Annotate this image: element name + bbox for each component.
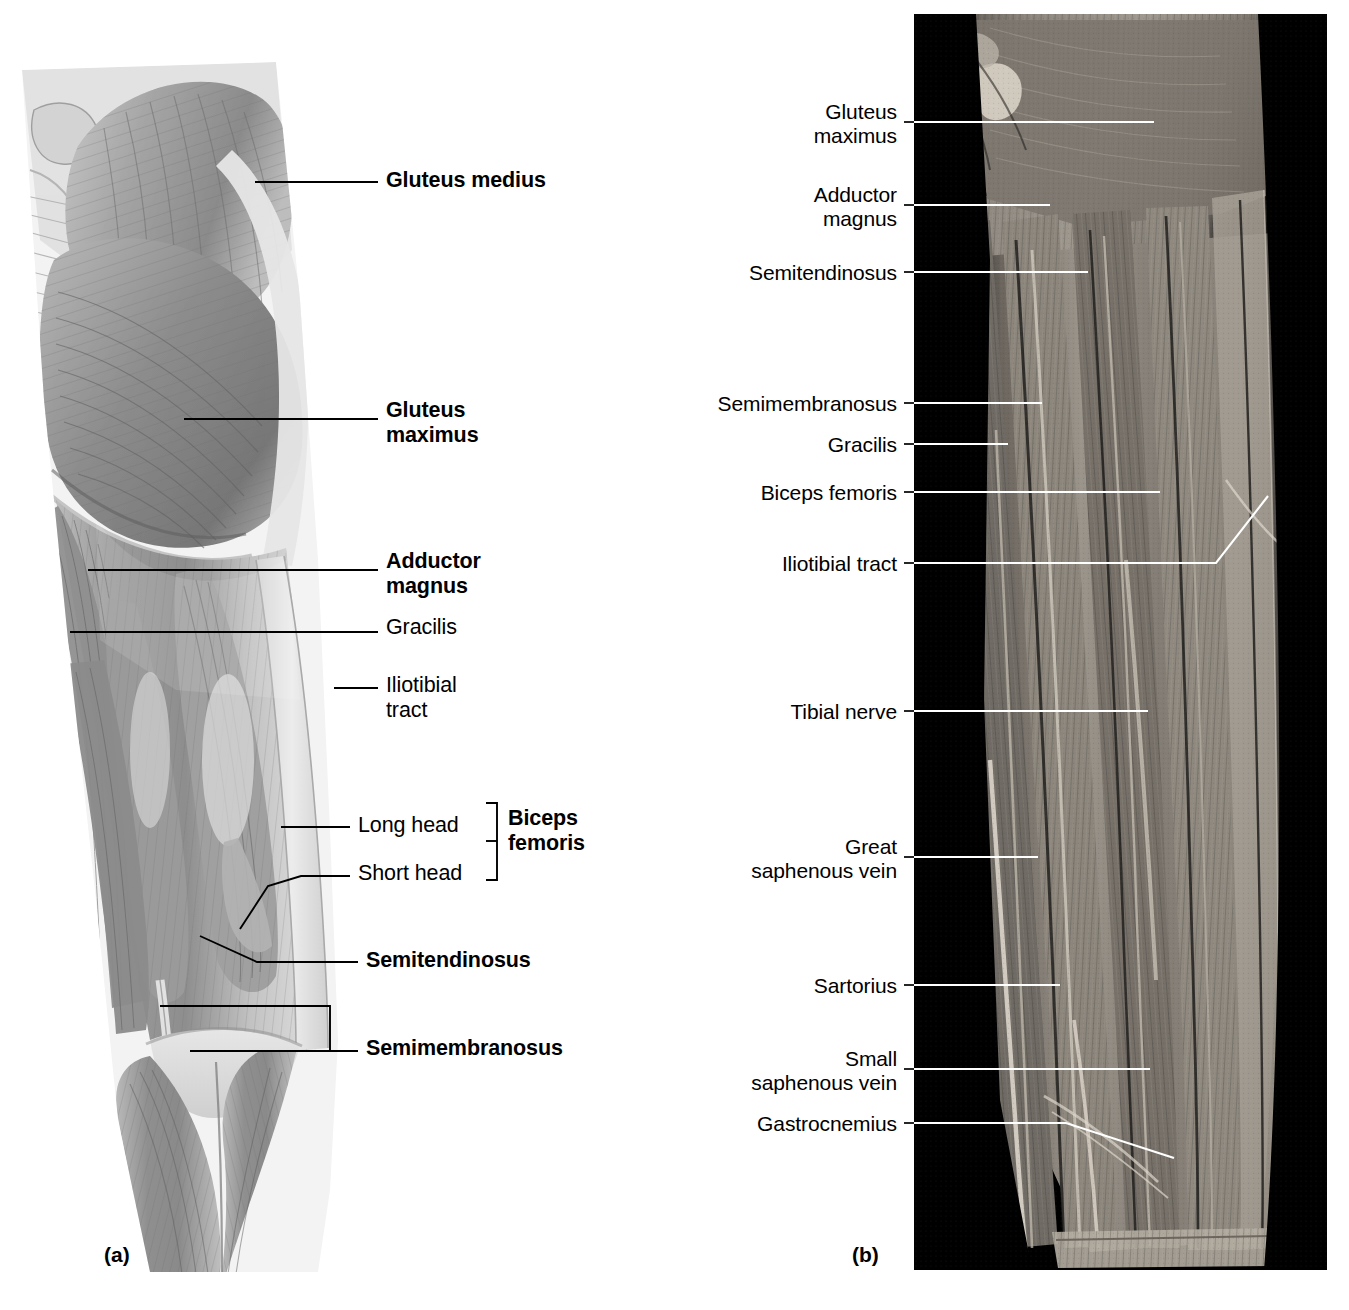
label-b-sartorius: Sartorius [577,974,897,998]
posterior-thigh-illustration [0,0,660,1310]
label-gracilis: Gracilis [386,615,457,640]
label-b-biceps-femoris: Biceps femoris [577,481,897,505]
label-b-gracilis: Gracilis [577,433,897,457]
label-b-great-saphenous-vein: Great saphenous vein [577,835,897,884]
label-adductor-magnus: Adductor magnus [386,549,481,599]
anatomy-figure: Gluteus medius Gluteus maximus Adductor … [0,0,1349,1310]
label-b-adductor-magnus: Adductor magnus [577,183,897,232]
label-b-tibial-nerve: Tibial nerve [577,700,897,724]
panel-b-photograph: Gluteus maximus Adductor magnus Semitend… [660,0,1349,1310]
label-iliotibial-tract: Iliotibial tract [386,673,457,723]
label-gluteus-maximus: Gluteus maximus [386,398,479,448]
label-biceps-femoris: Biceps femoris [508,806,585,856]
label-long-head: Long head [358,813,459,838]
label-semitendinosus: Semitendinosus [366,948,531,973]
panel-letter-a: (a) [104,1243,130,1267]
label-semimembranosus: Semimembranosus [366,1036,563,1061]
panel-a-illustration: Gluteus medius Gluteus maximus Adductor … [0,0,660,1310]
label-gluteus-medius: Gluteus medius [386,168,546,193]
label-b-semitendinosus: Semitendinosus [577,261,897,285]
label-b-small-saphenous-vein: Small saphenous vein [577,1047,897,1096]
label-b-gastrocnemius: Gastrocnemius [577,1112,897,1136]
label-b-gluteus-maximus: Gluteus maximus [577,100,897,149]
label-b-iliotibial-tract: Iliotibial tract [577,552,897,576]
panel-letter-b: (b) [852,1243,879,1267]
label-b-semimembranosus: Semimembranosus [577,392,897,416]
label-short-head: Short head [358,861,462,886]
